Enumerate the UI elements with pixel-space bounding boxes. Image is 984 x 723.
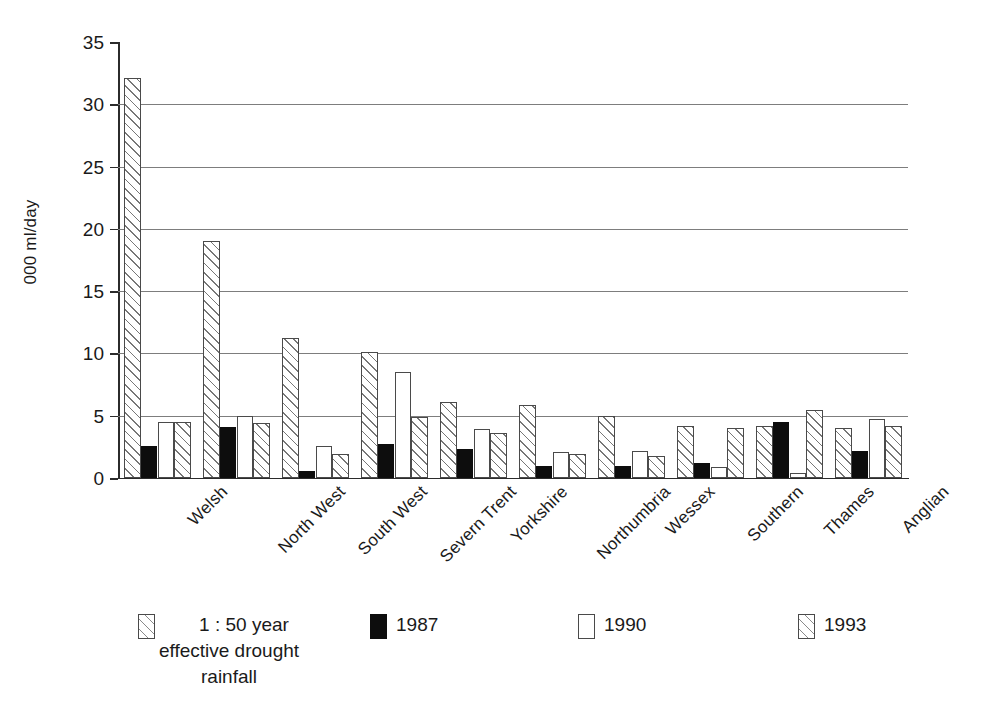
chart-legend: 1 : 50 year effective drought rainfall19… (138, 612, 928, 692)
bar (885, 426, 902, 478)
x-axis-label: Thames (820, 482, 878, 540)
bar (174, 422, 191, 478)
y-axis-tick (110, 353, 118, 355)
bar (569, 454, 586, 478)
bar (253, 423, 270, 478)
y-axis-tick-label: 35 (83, 33, 104, 52)
x-axis-label: North West (274, 482, 349, 557)
bar-group (434, 42, 513, 478)
y-axis-tick-label: 10 (83, 344, 104, 363)
bar (440, 402, 457, 478)
y-axis-tick (110, 42, 118, 44)
y-axis-title: 000 ml/day (21, 167, 41, 317)
bar-group (592, 42, 671, 478)
bar-group (355, 42, 434, 478)
bar-group (829, 42, 908, 478)
bar (835, 428, 852, 478)
bar (299, 471, 316, 478)
bar (361, 352, 378, 478)
bar (332, 454, 349, 478)
bar (316, 446, 333, 478)
bar (411, 417, 428, 478)
x-axis-labels: WelshNorth WestSouth WestSevern TrentYor… (118, 482, 908, 587)
bar-chart-figure: 000 ml/day 05101520253035 WelshNorth Wes… (0, 0, 984, 723)
bar (852, 451, 869, 478)
bar-group (750, 42, 829, 478)
bar (677, 426, 694, 478)
x-axis-label: South West (354, 482, 431, 559)
y-axis-tick-label: 30 (83, 95, 104, 114)
y-axis-tick (110, 104, 118, 106)
y-axis-tick (110, 416, 118, 418)
bar (711, 467, 728, 478)
x-axis-label: Southern (743, 482, 807, 546)
bar (490, 433, 507, 478)
legend-swatch (370, 614, 387, 639)
bar (124, 78, 141, 478)
bar-group (276, 42, 355, 478)
legend-label: 1987 (396, 612, 438, 637)
bar (869, 419, 886, 478)
x-axis-label: Anglian (898, 482, 953, 537)
bar (615, 466, 632, 478)
bar (553, 452, 570, 478)
y-axis-tick (110, 478, 118, 480)
bar (806, 410, 823, 479)
y-axis-tick (110, 229, 118, 231)
x-axis-label: Northumbria (593, 482, 675, 564)
bar (694, 463, 711, 478)
bar (282, 338, 299, 478)
y-axis-tick-label: 5 (93, 406, 104, 425)
bar (203, 241, 220, 478)
bar (220, 427, 237, 478)
bar (378, 444, 395, 478)
bar (632, 451, 649, 478)
legend-label: 1993 (824, 612, 866, 637)
bar (474, 429, 491, 478)
legend-swatch (798, 614, 815, 639)
bar (598, 416, 615, 478)
bar (790, 473, 807, 478)
y-axis-tick-label: 15 (83, 282, 104, 301)
x-axis-label: Severn Trent (436, 482, 521, 567)
y-axis-tick (110, 291, 118, 293)
bar-group (513, 42, 592, 478)
bar (536, 466, 553, 478)
bar (158, 422, 175, 478)
bar (519, 405, 536, 478)
bar-groups (118, 42, 908, 478)
legend-swatch (578, 614, 595, 639)
bar (773, 422, 790, 478)
x-axis-label: Welsh (184, 482, 232, 530)
bar (237, 416, 254, 478)
bar (727, 428, 744, 478)
y-axis-tick-label: 20 (83, 219, 104, 238)
y-axis-tick-label: 0 (93, 469, 104, 488)
y-axis-tick (110, 167, 118, 169)
legend-label: 1 : 50 year effective drought rainfall (134, 612, 324, 690)
legend-label: 1990 (604, 612, 646, 637)
plot-area: 05101520253035 (118, 42, 908, 478)
bar-group (671, 42, 750, 478)
bar (457, 449, 474, 478)
bar (648, 456, 665, 478)
bar-group (118, 42, 197, 478)
y-axis-tick-label: 25 (83, 157, 104, 176)
bar (395, 372, 412, 478)
bar (141, 446, 158, 478)
bar-group (197, 42, 276, 478)
bar (756, 426, 773, 478)
